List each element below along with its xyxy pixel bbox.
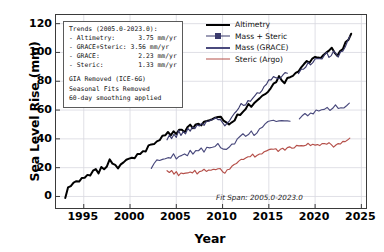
y-tick-label: 0 <box>18 189 52 202</box>
trends-line: - GRACE+Steric: 3.56 mm/yr <box>69 43 177 52</box>
x-tick-label: 2005 <box>152 210 198 223</box>
processing-note: GIA Removed (ICE-6G) <box>69 75 177 84</box>
sea-level-rise-chart: Sea Level Rise (mm) 020406080100120 Tren… <box>0 0 384 252</box>
legend-line-icon <box>206 59 230 60</box>
y-tick-label: 80 <box>18 74 52 87</box>
trends-line: Trends (2005.0-2023.0): <box>69 25 177 34</box>
legend: AltimetryMass + StericMass (GRACE)Steric… <box>206 19 288 65</box>
x-tick-label: 1995 <box>60 210 106 223</box>
legend-label: Mass + Steric <box>235 32 287 41</box>
x-axis-label: Year <box>55 231 365 246</box>
trends-line: - Steric: 1.33 mm/yr <box>69 61 177 70</box>
x-tick-label: 2020 <box>291 210 337 223</box>
fit-span-annotation: Fit Span: 2005.0-2023.0 <box>216 193 303 202</box>
y-tick-label: 60 <box>18 103 52 116</box>
x-tick-label: 2025 <box>337 210 383 223</box>
legend-item[interactable]: Mass + Steric <box>206 31 288 43</box>
legend-marker-icon <box>215 33 221 39</box>
plot-area: Trends (2005.0-2023.0):- Altimetry: 3.75… <box>55 14 367 209</box>
legend-label: Steric (Argo) <box>235 55 283 64</box>
legend-swatch <box>206 31 230 42</box>
trends-line: - Altimetry: 3.75 mm/yr <box>69 34 177 43</box>
x-tick-label: 2000 <box>106 210 152 223</box>
legend-label: Mass (GRACE) <box>235 43 288 52</box>
y-tick-label: 120 <box>18 16 52 29</box>
trends-line: - GRACE: 2.23 mm/yr <box>69 52 177 61</box>
legend-line-icon <box>206 47 230 49</box>
y-tick-label: 20 <box>18 160 52 173</box>
processing-note: 60-day smoothing applied <box>69 94 177 103</box>
y-tick-label: 40 <box>18 131 52 144</box>
legend-swatch <box>206 54 230 65</box>
x-axis-ticks: 1995200020052010201520202025 <box>0 210 384 226</box>
y-tick-label: 100 <box>18 45 52 58</box>
processing-note: Seasonal Fits Removed <box>69 85 177 94</box>
x-tick-label: 2015 <box>245 210 291 223</box>
legend-label: Altimetry <box>235 20 270 29</box>
legend-item[interactable]: Steric (Argo) <box>206 54 288 66</box>
x-tick-label: 2010 <box>199 210 245 223</box>
legend-item[interactable]: Mass (GRACE) <box>206 42 288 54</box>
legend-swatch <box>206 19 230 30</box>
legend-swatch <box>206 42 230 53</box>
trends-infobox: Trends (2005.0-2023.0):- Altimetry: 3.75… <box>63 21 183 108</box>
legend-line-icon <box>206 24 230 26</box>
legend-item[interactable]: Altimetry <box>206 19 288 31</box>
